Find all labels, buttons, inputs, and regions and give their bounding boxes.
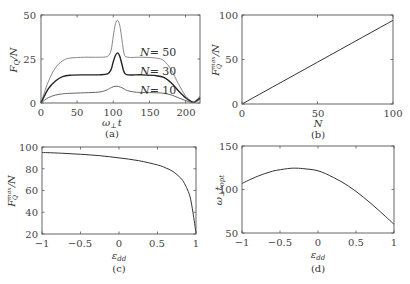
panel-a-label: (a)	[105, 128, 119, 139]
panel-a-xtick-0: 0	[38, 107, 44, 118]
panel-a-ylabel: FQ/N	[8, 46, 21, 73]
panel-a-xtick-150: 150	[140, 107, 159, 118]
panel-d-label: (d)	[311, 263, 325, 274]
panel-b-xtick-0: 0	[239, 108, 245, 119]
series-line-f-q-max-n	[42, 152, 196, 232]
panel-c-plot	[42, 152, 196, 232]
panel-d-plot	[242, 168, 394, 224]
panel-b-ylabel: FQmax/N	[209, 43, 222, 77]
panel-a-ytick-50: 50	[23, 10, 36, 21]
panel-a-ytick-0: 0	[30, 98, 36, 109]
figure: 0 25 50 0 50 100 150 200 ω⊥t FQ/N (a) N=…	[0, 0, 410, 284]
panel-d-xtick-05: 0.5	[348, 237, 364, 248]
panel-c-ytick-100: 100	[19, 142, 38, 153]
panel-c-xtick-m05: −0.5	[68, 238, 92, 249]
panel-c-ytick-60: 60	[25, 185, 38, 196]
panel-c-xtick-05: 0.5	[149, 238, 165, 249]
panel-d-xtick-0: 0	[315, 237, 321, 248]
panel-c-ylabel: FQmax/N	[5, 174, 18, 208]
panel-d-ticks	[242, 146, 394, 233]
panel-c-ticks	[42, 147, 196, 234]
panel-c-xlabel: εdd	[112, 250, 127, 263]
panel-c-xtick-0: 0	[116, 238, 122, 249]
panel-a-xtick-50: 50	[71, 107, 84, 118]
panel-b-ticks	[242, 15, 393, 104]
panel-d-xtick-m05: −0.5	[268, 237, 292, 248]
panel-c-ytick-80: 80	[25, 164, 38, 175]
panel-b-ytick-0: 0	[232, 99, 238, 110]
panel-b-ytick-100: 100	[219, 10, 238, 21]
panel-b-xtick-100: 100	[383, 108, 402, 119]
panel-b-label: (b)	[311, 129, 325, 140]
series-line--t-opt	[242, 168, 394, 224]
legend-n50: N= 50	[139, 46, 176, 59]
panel-d-frame	[242, 146, 394, 233]
panel-b-xlabel: N	[313, 118, 324, 129]
panel-d-xtick-m1: −1	[235, 237, 250, 248]
panel-c-label: (c)	[112, 263, 126, 274]
panel-c-xtick-1: 1	[193, 238, 199, 249]
panel-a: 0 25 50 0 50 100 150 200 ω⊥t FQ/N (a) N=…	[8, 10, 200, 139]
panel-b-frame	[242, 15, 393, 104]
panel-d-ytick-150: 150	[219, 141, 238, 152]
panel-c-ytick-40: 40	[25, 207, 38, 218]
panel-c: 20 40 60 80 100 −1 −0.5 0 0.5 1 εdd FQma…	[5, 142, 199, 274]
panel-c-xtick-m1: −1	[35, 238, 50, 249]
panel-d: 50 100 150 −1 −0.5 0 0.5 1 εdd ω⊥topt (d…	[213, 141, 397, 274]
panel-d-xtick-1: 1	[391, 237, 397, 248]
panel-b-ytick-50: 50	[225, 54, 238, 65]
panel-c-frame	[42, 147, 196, 234]
legend-n10: N= 10	[139, 84, 176, 97]
panel-b-plot	[242, 20, 393, 104]
series-line-f-q-max-n	[242, 20, 393, 104]
panel-a-ytick-25: 25	[23, 54, 36, 65]
panel-b: 0 50 100 0 50 100 N FQmax/N (b)	[209, 10, 403, 140]
panel-d-xlabel: εdd	[311, 249, 326, 262]
panel-a-xtick-200: 200	[176, 107, 195, 118]
legend-n30: N= 30	[139, 65, 176, 78]
